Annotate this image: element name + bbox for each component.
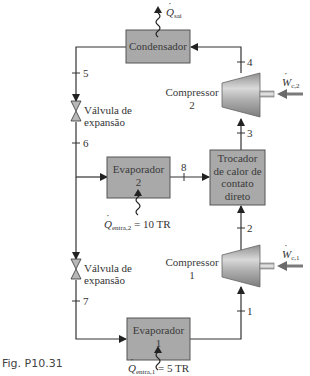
valve-upper-line1: Válvula de bbox=[84, 104, 132, 116]
compressor-1-line1: Compressor bbox=[164, 256, 220, 269]
w-c2-label: Wc,2 bbox=[282, 76, 300, 92]
heat-exchanger-label: Trocador de calor de contato direto bbox=[210, 152, 265, 202]
valve-upper-line2: expansão bbox=[84, 116, 132, 128]
evaporator-2-label: Evaporador 2 bbox=[107, 163, 170, 189]
compressor-1-icon bbox=[222, 245, 274, 287]
w-c1-symbol: W bbox=[282, 248, 291, 260]
valve-lower-line2: expansão bbox=[84, 274, 132, 286]
expansion-valve-upper-icon bbox=[71, 101, 81, 121]
state-7-label: 7 bbox=[83, 295, 89, 307]
q-in-1-value: = 5 TR bbox=[158, 362, 189, 374]
q-in-2-label: Qentra,2 = 10 TR bbox=[104, 218, 171, 234]
w-c2-sub: c,2 bbox=[291, 82, 299, 90]
q-in-2-sub: entra,2 bbox=[112, 224, 131, 232]
figure-caption: Fig. P10.31 bbox=[2, 357, 63, 370]
q-out-label: Qsai bbox=[166, 6, 182, 22]
compressor-2-icon bbox=[222, 73, 274, 117]
w-c1-label: Wc,1 bbox=[282, 248, 300, 264]
evaporator-2-line2: 2 bbox=[107, 176, 170, 189]
compressor-2-line2: 2 bbox=[164, 99, 220, 112]
state-3-label: 3 bbox=[247, 127, 253, 139]
state-8-label: 8 bbox=[181, 161, 187, 173]
q-in-2-value: = 10 TR bbox=[134, 218, 171, 230]
hx-line2: de calor de bbox=[210, 165, 265, 178]
state-2-label: 2 bbox=[247, 222, 253, 234]
line-state-1 bbox=[190, 287, 241, 339]
hx-line3: contato bbox=[210, 177, 265, 190]
q-in-1-label: Qentra,1 = 5 TR bbox=[128, 362, 189, 376]
line-state-7 bbox=[76, 280, 126, 339]
evaporator-1-label: Evaporador 1 bbox=[127, 324, 190, 350]
state-4-label: 4 bbox=[247, 56, 253, 68]
state-1-label: 1 bbox=[247, 305, 253, 317]
evaporator-1-line1: Evaporador bbox=[127, 324, 190, 337]
state-5-label: 5 bbox=[83, 67, 89, 79]
q-out-symbol: Q bbox=[166, 6, 174, 18]
state-6-label: 6 bbox=[83, 137, 89, 149]
evaporator-2-line1: Evaporador bbox=[107, 163, 170, 176]
q-out-sub: sai bbox=[174, 12, 182, 20]
valve-lower-line1: Válvula de bbox=[84, 262, 132, 274]
compressor-2-label: Compressor 2 bbox=[164, 86, 220, 112]
q-in-1-sub: entra,1 bbox=[136, 368, 155, 376]
w-c2-symbol: W bbox=[282, 76, 291, 88]
w-c1-sub: c,1 bbox=[291, 254, 299, 262]
compressor-1-line2: 1 bbox=[164, 269, 220, 282]
valve-lower-label: Válvula de expansão bbox=[84, 262, 132, 286]
condenser-label: Condensador bbox=[126, 40, 190, 53]
compressor-2-line1: Compressor bbox=[164, 86, 220, 99]
q-in-1-symbol: Q bbox=[128, 362, 136, 374]
q-in-2-symbol: Q bbox=[104, 218, 112, 230]
line-state-4 bbox=[191, 47, 241, 73]
hx-line1: Trocador bbox=[210, 152, 265, 165]
compressor-1-label: Compressor 1 bbox=[164, 256, 220, 282]
hx-line4: direto bbox=[210, 190, 265, 203]
expansion-valve-lower-icon bbox=[71, 259, 81, 279]
valve-upper-label: Válvula de expansão bbox=[84, 104, 132, 128]
evaporator-1-line2: 1 bbox=[127, 337, 190, 350]
